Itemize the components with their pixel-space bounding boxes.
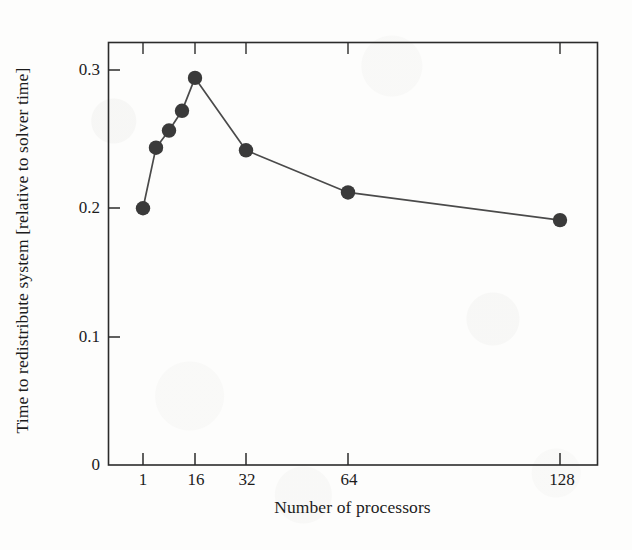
data-point-8 xyxy=(175,104,189,118)
data-point-16 xyxy=(188,71,202,85)
data-point-1 xyxy=(136,201,150,215)
data-point-4 xyxy=(162,123,176,137)
x-tick-label-128: 128 xyxy=(549,470,575,490)
x-tick-label-32: 32 xyxy=(239,470,256,490)
x-tick-label-16: 16 xyxy=(188,470,205,490)
figure-container: 0.3 0.2 0.1 0 1 16 32 64 128 Time to red… xyxy=(0,0,632,550)
y-tick-label-0: 0 xyxy=(54,455,100,475)
data-point-128 xyxy=(553,213,567,227)
x-tick-marks-top xyxy=(143,43,560,55)
y-tick-label-0.3: 0.3 xyxy=(54,60,100,80)
y-axis-label: Time to redistribute system [relative to… xyxy=(0,0,46,500)
y-tick-label-0.2: 0.2 xyxy=(54,198,100,218)
data-line xyxy=(143,78,560,220)
data-point-32 xyxy=(239,143,253,157)
data-point-markers xyxy=(136,71,567,228)
y-axis-label-text: Time to redistribute system [relative to… xyxy=(13,67,34,433)
data-point-64 xyxy=(341,185,355,199)
x-tick-marks-bottom xyxy=(143,453,560,465)
x-tick-label-64: 64 xyxy=(341,470,358,490)
y-tick-marks xyxy=(109,70,121,337)
x-tick-label-1: 1 xyxy=(139,470,148,490)
data-point-2 xyxy=(149,140,163,154)
y-tick-label-0.1: 0.1 xyxy=(54,327,100,347)
x-axis-label: Number of processors xyxy=(108,497,597,518)
